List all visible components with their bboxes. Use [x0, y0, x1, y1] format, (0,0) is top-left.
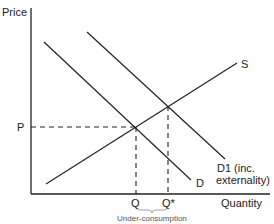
supply-label: S	[241, 58, 248, 70]
demand1-label-line1: D1 (inc.	[217, 162, 255, 174]
supply-curve	[46, 63, 237, 184]
quantity-star-label: Q*	[162, 197, 176, 209]
demand1-label-line2: externality)	[216, 174, 270, 186]
demand-with-externality-curve	[87, 32, 225, 159]
price-label: P	[17, 121, 24, 133]
demand-curve	[44, 42, 191, 180]
x-axis-label: Quantity	[221, 197, 262, 209]
y-axis-label: Price	[2, 6, 27, 18]
demand-label: D	[196, 177, 204, 189]
brace-label: Under-consumption	[117, 214, 187, 223]
externality-diagram: Price Quantity P Q Q* S D D1 (inc. exter…	[0, 0, 274, 224]
quantity-label: Q	[131, 197, 140, 209]
